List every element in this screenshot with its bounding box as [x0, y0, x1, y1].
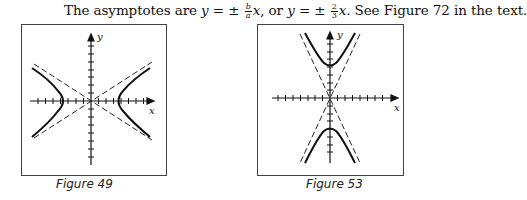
figure-53-frame: y x [257, 24, 404, 176]
frac1-den: a [245, 12, 252, 20]
figure-49-caption: Figure 49 [56, 177, 113, 191]
eq1-op: = ± [209, 2, 244, 18]
eq2-lhs: y [287, 2, 295, 18]
text-suffix: . See Figure 72 in the text. [346, 2, 527, 18]
text-mid: , or [260, 2, 287, 18]
eq1-lhs: y [201, 2, 209, 18]
vertical-hyperbola-graph: y x [258, 25, 403, 175]
horizontal-hyperbola-graph: y x [22, 25, 166, 175]
eq2-op: = ± [295, 2, 330, 18]
text-prefix: The asymptotes are [64, 2, 201, 18]
figure-49-frame: y x [21, 24, 167, 176]
asymptote-text: The asymptotes are y = ± bax, or y = ± 2… [64, 2, 527, 20]
fraction-2-over-3: 23 [331, 3, 338, 20]
fraction-b-over-a: ba [245, 3, 252, 20]
y-axis-label: y [96, 31, 103, 42]
x-axis-label: x [394, 102, 400, 113]
figure-53-caption: Figure 53 [306, 177, 363, 191]
y-axis-label: y [336, 29, 343, 40]
x-axis-label: x [149, 105, 155, 116]
frac2-den: 3 [331, 12, 338, 20]
